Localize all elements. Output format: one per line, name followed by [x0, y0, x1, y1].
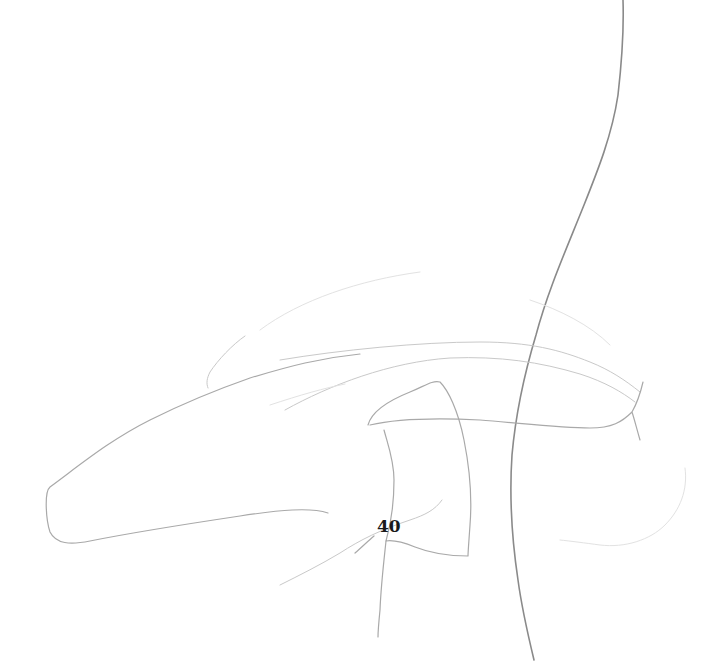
right-hook-curve	[370, 382, 643, 440]
sketch-canvas: 40	[0, 0, 720, 664]
small-arc-left	[207, 336, 245, 388]
elongated-tapered-outline	[46, 354, 360, 543]
diagonal-lower-stroke	[280, 500, 442, 585]
short-vertical-stroke	[378, 541, 386, 637]
number-label: 40	[377, 518, 401, 535]
horizontal-band-upper	[280, 342, 640, 392]
faint-guide-stroke	[260, 272, 610, 405]
lower-right-arc	[560, 468, 686, 546]
pencil-sketch	[0, 0, 720, 664]
horizontal-band-lower	[285, 358, 635, 410]
long-vertical-curve	[511, 0, 623, 660]
